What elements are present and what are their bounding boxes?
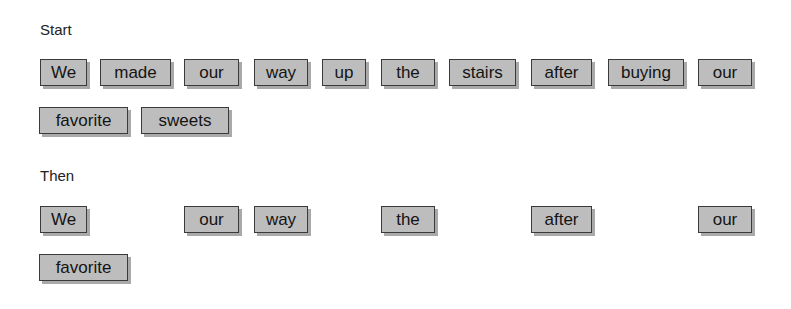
word-box: We — [40, 59, 87, 86]
word-box: our — [184, 59, 239, 86]
word-box: stairs — [449, 59, 516, 86]
start-label: Start — [40, 21, 72, 38]
word-box: our — [698, 59, 752, 86]
word-box: buying — [608, 59, 684, 86]
word-box: favorite — [39, 107, 128, 134]
then-row-2: favorite — [0, 254, 791, 285]
then-label: Then — [40, 167, 74, 184]
word-box: We — [40, 206, 87, 233]
word-box: after — [531, 206, 592, 233]
then-row-1: We our way the after our — [0, 206, 791, 237]
word-box: our — [698, 206, 752, 233]
word-box: favorite — [39, 254, 128, 281]
word-box: our — [184, 206, 239, 233]
word-box: the — [381, 206, 435, 233]
word-box: the — [381, 59, 435, 86]
word-box: after — [531, 59, 592, 86]
word-box: made — [100, 59, 171, 86]
word-box: way — [254, 206, 308, 233]
word-box: way — [254, 59, 308, 86]
word-box: sweets — [141, 107, 229, 134]
start-row-1: We made our way up the stairs after buyi… — [0, 59, 791, 90]
word-box: up — [322, 59, 366, 86]
start-row-2: favorite sweets — [0, 107, 791, 138]
